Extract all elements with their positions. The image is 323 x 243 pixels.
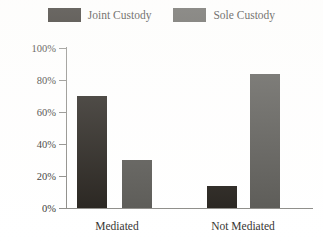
y-axis-line <box>66 47 67 209</box>
y-axis-tick <box>59 176 67 177</box>
y-axis-tick-label: 80% <box>12 75 56 86</box>
y-axis-tick <box>59 208 67 209</box>
bar-mediated-joint-custody <box>77 96 107 208</box>
y-axis-tick <box>59 80 67 81</box>
y-axis-tick-label: 20% <box>12 171 56 182</box>
y-axis-tick-label: 0% <box>12 203 56 214</box>
y-axis-tick <box>59 48 67 49</box>
bar-chart: Joint Custody Sole Custody 100%80%60%40%… <box>0 0 323 243</box>
y-axis-tick-label: 100% <box>12 43 56 54</box>
bar-not-mediated-joint-custody <box>207 186 237 208</box>
x-axis-label-not-mediated: Not Mediated <box>211 220 275 232</box>
y-axis-tick-label: 40% <box>12 139 56 150</box>
y-axis-tick-label: 60% <box>12 107 56 118</box>
x-axis-line <box>59 208 313 209</box>
bar-mediated-sole-custody <box>122 160 152 208</box>
x-axis-label-mediated: Mediated <box>95 220 138 232</box>
y-axis-tick <box>59 112 67 113</box>
y-axis-tick <box>59 144 67 145</box>
plot-area: 100%80%60%40%20%0% MediatedNot Mediated <box>0 0 323 243</box>
bar-not-mediated-sole-custody <box>250 74 280 208</box>
